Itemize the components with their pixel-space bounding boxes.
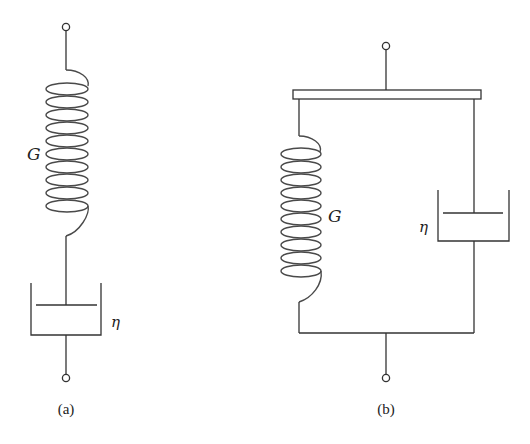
panel-a-caption: (a) xyxy=(58,401,75,418)
panel-b-bottom-terminal xyxy=(382,374,389,381)
panel-b-spring-label: G xyxy=(328,206,342,226)
panel-a-bottom-terminal xyxy=(62,374,69,381)
panel-a-spring-label: G xyxy=(27,144,41,164)
panel-b-caption: (b) xyxy=(377,401,395,418)
panel-b-top-plate xyxy=(293,90,481,99)
diagram-canvas: G η (a) xyxy=(0,0,530,444)
panel-a-dashpot-label: η xyxy=(111,313,120,331)
panel-b-top-terminal xyxy=(382,42,389,49)
panel-a-series-model: G η (a) xyxy=(27,23,120,418)
panel-b-parallel-model: G η (b) xyxy=(281,42,509,418)
panel-b-dashpot-label: η xyxy=(419,218,428,236)
panel-a-spring xyxy=(46,70,88,236)
panel-b-spring xyxy=(281,136,321,302)
panel-a-top-terminal xyxy=(62,23,69,30)
